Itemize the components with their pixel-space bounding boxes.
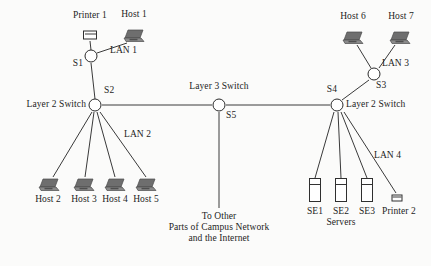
switch-node-s2[interactable] xyxy=(89,99,102,112)
printer2-body xyxy=(392,195,403,202)
link-s2-host4 xyxy=(97,112,115,177)
host-icon-host4[interactable] xyxy=(104,178,126,192)
node-label-s2: S2 xyxy=(104,85,114,96)
printer1-paper-slot xyxy=(85,34,96,35)
server-icon-se2[interactable] xyxy=(335,178,347,202)
link-s1-s2 xyxy=(91,63,95,99)
uplink-note: To Other Parts of Campus Network and the… xyxy=(134,211,304,244)
server-label-se1: SE1 xyxy=(307,206,323,217)
printer-label-printer1: Printer 1 xyxy=(73,10,107,21)
host-icon-host1[interactable] xyxy=(123,29,145,43)
se2-faceplate-line xyxy=(336,184,346,185)
host-icon-host6[interactable] xyxy=(342,31,364,45)
link-s3-s4 xyxy=(342,80,369,100)
lan-label-lan4: LAN 4 xyxy=(374,150,401,161)
role-label-layer3-switch: Layer 3 Switch xyxy=(189,81,248,92)
printer2-paper-slot xyxy=(393,197,401,198)
lan-label-lan1: LAN 1 xyxy=(110,45,137,56)
host-icon-host5[interactable] xyxy=(135,178,157,192)
host-label-host7: Host 7 xyxy=(388,11,414,22)
switch-node-s3[interactable] xyxy=(368,68,381,81)
host-label-host5: Host 5 xyxy=(133,194,159,205)
host-icon-host2[interactable] xyxy=(38,178,60,192)
group-label-servers: Servers xyxy=(326,217,355,228)
host-label-host1: Host 1 xyxy=(121,9,147,20)
node-label-s3: S3 xyxy=(376,80,386,91)
server-icon-se3[interactable] xyxy=(361,178,373,202)
link-s4-se2 xyxy=(338,112,341,178)
printer1-body xyxy=(83,31,97,40)
link-host6-s3 xyxy=(357,45,371,68)
uplink-note-line2: Parts of Campus Network xyxy=(134,222,304,233)
switch-node-s4[interactable] xyxy=(331,99,344,112)
link-s2-host5 xyxy=(100,112,146,177)
node-label-s1: S1 xyxy=(73,58,83,69)
node-label-s4: S4 xyxy=(327,84,337,95)
switch-node-s1[interactable] xyxy=(85,50,98,63)
link-s4-se1 xyxy=(315,112,334,178)
link-s4-se3 xyxy=(341,112,367,178)
se3-faceplate-line xyxy=(362,184,372,185)
printer-label-printer2: Printer 2 xyxy=(382,206,416,217)
lan-label-lan3: LAN 3 xyxy=(382,58,409,69)
lan-label-lan2: LAN 2 xyxy=(124,129,151,140)
server-label-se3: SE3 xyxy=(359,206,375,217)
printer-icon-printer2[interactable] xyxy=(392,195,403,202)
host-icon-host3[interactable] xyxy=(73,178,95,192)
host-icon-host7[interactable] xyxy=(389,31,411,45)
host-label-host4: Host 4 xyxy=(102,194,128,205)
uplink-note-line1: To Other xyxy=(134,211,304,222)
server-icon-se1[interactable] xyxy=(309,178,321,202)
node-label-s5: S5 xyxy=(226,110,236,121)
server-label-se2: SE2 xyxy=(333,206,349,217)
switch-node-s5[interactable] xyxy=(213,99,226,112)
network-diagram: S1 S2 S3 S4 S5 Layer 2 Switch Layer 3 Sw… xyxy=(0,0,431,266)
uplink-note-line3: and the Internet xyxy=(134,233,304,244)
role-label-layer2-switch-right: Layer 2 Switch xyxy=(346,99,405,110)
se1-faceplate-line xyxy=(310,184,320,185)
host-label-host2: Host 2 xyxy=(35,194,61,205)
role-label-layer2-switch-left: Layer 2 Switch xyxy=(27,99,86,110)
host-label-host6: Host 6 xyxy=(340,11,366,22)
host-label-host3: Host 3 xyxy=(71,194,97,205)
printer-icon-printer1[interactable] xyxy=(83,31,97,40)
